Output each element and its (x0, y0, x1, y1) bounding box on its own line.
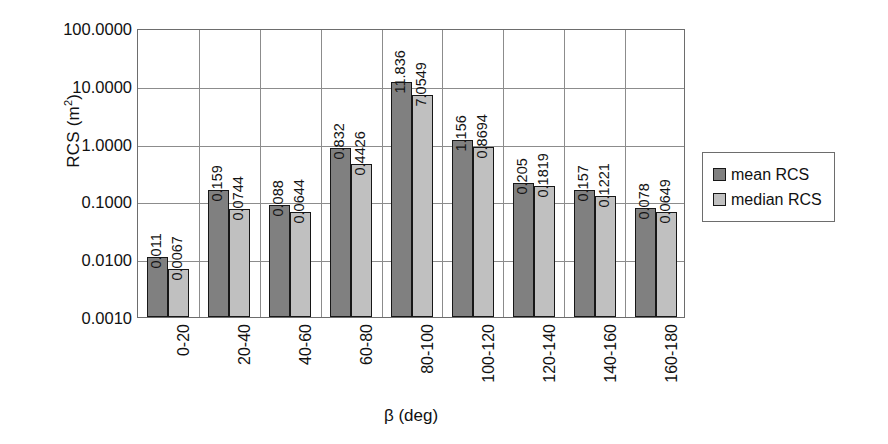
x-axis-tick-label: 140-160 (602, 324, 620, 383)
bar-value-label: 0.832 (332, 123, 347, 159)
x-axis-tick-label: 160-180 (663, 324, 681, 383)
x-axis-tick-label: 40-60 (297, 324, 315, 365)
bar-value-label: 0.205 (514, 159, 529, 195)
bar-value-label: 0.088 (271, 180, 286, 216)
bar-value-label: 0.078 (636, 183, 651, 219)
bar (208, 190, 229, 317)
bar-value-label: 0.0744 (231, 176, 246, 220)
bar-value-label: 0.1819 (535, 154, 550, 198)
x-axis-tick-label: 100-120 (480, 324, 498, 383)
bar-value-label: 0.0644 (292, 180, 307, 224)
y-axis-tick-label: 0.1000 (40, 193, 132, 212)
bar (269, 205, 290, 317)
vertical-gridline (260, 30, 261, 317)
bar (351, 164, 372, 317)
vertical-gridline (382, 30, 383, 317)
bar-value-label: 7.0549 (414, 62, 429, 106)
bar-value-label: 0.159 (210, 165, 225, 201)
bar (595, 196, 616, 317)
bar (290, 212, 311, 317)
legend-item: median RCS (713, 187, 822, 212)
plot-area: 0.0110.00670.1590.07440.0880.06440.8320.… (137, 29, 685, 318)
bar (412, 95, 433, 317)
bar-value-label: 0.8694 (474, 114, 489, 158)
bar-value-label: 1.156 (453, 115, 468, 151)
x-axis-tick-label: 0-20 (175, 324, 193, 356)
bar (513, 183, 534, 317)
x-axis-tick-labels: 0-2020-4040-6060-8080-100100-120120-1401… (137, 318, 685, 404)
vertical-gridline (564, 30, 565, 317)
y-axis-tick-labels: 100.000010.00001.00000.10000.01000.0010 (40, 0, 132, 444)
bar (635, 208, 656, 317)
x-axis-tick-label: 60-80 (358, 324, 376, 365)
legend-swatch-icon (713, 168, 726, 181)
bar (534, 186, 555, 317)
vertical-gridline (503, 30, 504, 317)
legend-swatch-icon (713, 193, 726, 206)
x-axis-tick-label: 80-100 (419, 324, 437, 374)
bar-value-label: 0.011 (149, 233, 164, 268)
bar (574, 190, 595, 317)
bar (473, 147, 494, 317)
bar-value-label: 0.1221 (596, 164, 611, 208)
y-axis-tick-label: 1.0000 (40, 135, 132, 154)
legend: mean RCSmedian RCS (702, 152, 835, 222)
legend-item-label: mean RCS (731, 166, 809, 184)
vertical-gridline (625, 30, 626, 317)
bar-value-label: 0.0649 (657, 179, 672, 223)
bar (656, 212, 677, 317)
rcs-bar-chart: RCS (m2) 100.000010.00001.00000.10000.01… (0, 0, 888, 444)
x-axis-title: β (deg) (137, 406, 685, 426)
legend-item-label: median RCS (731, 191, 822, 209)
bar-value-label: 0.0067 (170, 236, 185, 280)
x-axis-tick-label: 20-40 (236, 324, 254, 365)
y-axis-tick-label: 0.0100 (40, 251, 132, 270)
bar-value-label: 0.157 (575, 165, 590, 201)
vertical-gridline (199, 30, 200, 317)
bar-value-label: 0.4426 (353, 131, 368, 175)
bar-value-label: 11.836 (393, 50, 408, 93)
bar (229, 209, 250, 317)
x-axis-tick-label: 120-140 (541, 324, 559, 383)
y-axis-tick-label: 10.0000 (40, 77, 132, 96)
vertical-gridline (321, 30, 322, 317)
y-axis-tick-label: 0.0010 (40, 309, 132, 328)
bar (452, 140, 473, 317)
bar (330, 148, 351, 317)
vertical-gridline (442, 30, 443, 317)
bar (391, 82, 412, 317)
legend-item: mean RCS (713, 162, 822, 187)
y-axis-tick-label: 100.0000 (40, 20, 132, 39)
